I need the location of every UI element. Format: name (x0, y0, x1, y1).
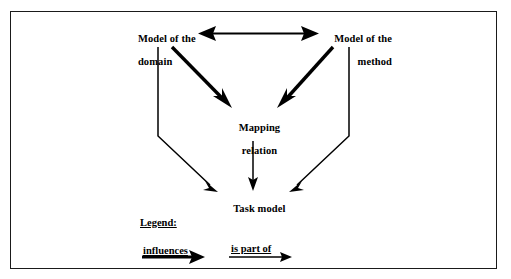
legend-item-is-part-of-label: is part of (231, 243, 271, 254)
legend-item-influences-label: influences (143, 245, 188, 256)
node-mapping-relation: Mapping relation (218, 110, 290, 168)
node-model-method-line2: method (358, 56, 392, 67)
figure-root: Model of the domain Model of the method … (0, 0, 511, 279)
node-model-domain-line1: Model of the (138, 33, 196, 44)
node-model-of-the-domain: Model of the domain (127, 21, 196, 79)
node-model-method-line1: Model of the (334, 33, 392, 44)
node-task-model-line1: Task model (233, 203, 285, 214)
node-model-of-the-method: Model of the method (316, 21, 392, 79)
legend-title: Legend: (140, 217, 177, 228)
node-mapping-relation-line2: relation (242, 145, 278, 156)
node-task-model: Task model (206, 191, 302, 226)
node-model-domain-line2: domain (138, 56, 172, 67)
node-mapping-relation-line1: Mapping (239, 122, 281, 133)
edge-domain-method-bidirectional (198, 26, 319, 41)
